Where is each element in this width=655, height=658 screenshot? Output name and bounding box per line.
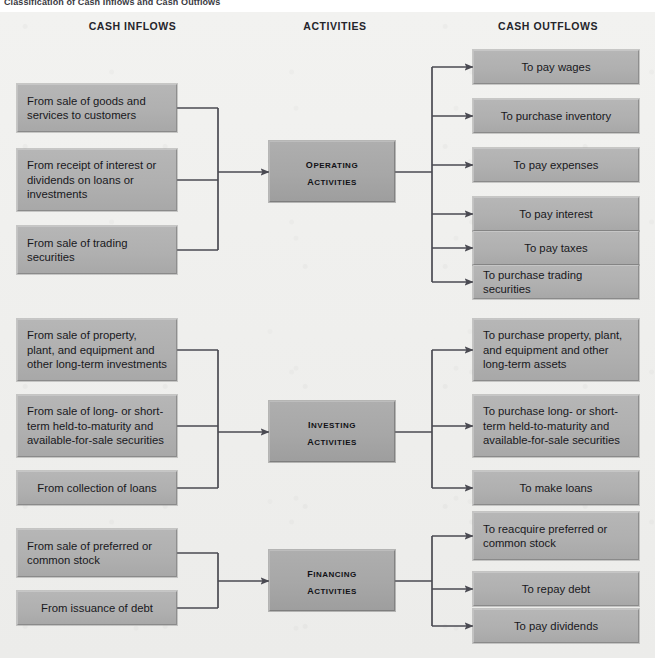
inflow-box-from-sale-of-property-plant-and-equipment-and-: From sale of property, plant, and equipm… <box>17 319 177 381</box>
activity-label-line2: Activities <box>307 432 357 449</box>
inflow-box-from-issuance-of-debt: From issuance of debt <box>17 591 177 625</box>
inflow-box-from-collection-of-loans: From collection of loans <box>17 471 177 505</box>
outflow-box-to-purchase-trading-securities: To purchase trading securities <box>473 265 639 299</box>
outflow-box-to-purchase-property-plant-and-equipment-and-o: To purchase property, plant, and equipme… <box>473 319 639 381</box>
outflow-box-to-pay-taxes: To pay taxes <box>473 231 639 265</box>
activity-label-line1: Financing <box>307 564 357 581</box>
outflow-box-to-pay-dividends: To pay dividends <box>473 609 639 643</box>
outflow-box-to-purchase-long-or-short-term-held-to-maturit: To purchase long- or short-term held-to-… <box>473 395 639 457</box>
inflow-box-from-sale-of-goods-and-services-to-customers: From sale of goods and services to custo… <box>17 84 177 132</box>
inflow-box-from-sale-of-trading-securities: From sale of trading securities <box>17 226 177 274</box>
activity-box-financing: FinancingActivities <box>269 550 395 611</box>
outflow-box-to-pay-expenses: To pay expenses <box>473 148 639 182</box>
diagram-page: Classification of Cash Inflows and Cash … <box>0 0 655 658</box>
column-header-cash-inflows: CASH INFLOWS <box>30 20 235 32</box>
outflow-box-to-repay-debt: To repay debt <box>473 572 639 606</box>
outflow-box-to-pay-wages: To pay wages <box>473 50 639 84</box>
activity-label-line1: Investing <box>308 415 356 432</box>
outflow-box-to-reacquire-preferred-or-common-stock: To reacquire preferred or common stock <box>473 512 639 560</box>
inflow-box-from-sale-of-preferred-or-common-stock: From sale of preferred or common stock <box>17 529 177 577</box>
activity-label-line2: Activities <box>307 172 357 189</box>
outflow-box-to-make-loans: To make loans <box>473 471 639 505</box>
inflow-box-from-sale-of-long-or-short-term-held-to-maturi: From sale of long- or short-term held-to… <box>17 395 177 457</box>
column-header-activities: ACTIVITIES <box>245 20 425 32</box>
figure-caption: Classification of Cash Inflows and Cash … <box>4 0 504 7</box>
activity-box-operating: OperatingActivities <box>269 141 395 202</box>
inflow-box-from-receipt-of-interest-or-dividends-on-loans: From receipt of interest or dividends on… <box>17 149 177 211</box>
outflow-box-to-purchase-inventory: To purchase inventory <box>473 99 639 133</box>
column-header-cash-outflows: CASH OUTFLOWS <box>448 20 648 32</box>
activity-label-line1: Operating <box>306 155 358 172</box>
activity-box-investing: InvestingActivities <box>269 401 395 462</box>
diagram-canvas: CASH INFLOWSACTIVITIESCASH OUTFLOWS From… <box>0 12 655 658</box>
outflow-box-to-pay-interest: To pay interest <box>473 197 639 231</box>
activity-label-line2: Activities <box>307 581 357 598</box>
